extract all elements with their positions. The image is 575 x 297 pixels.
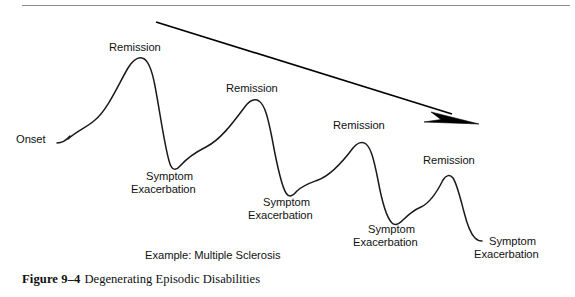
example-note: Example: Multiple Sclerosis [145, 249, 280, 263]
label-exacerbation-3-line2: Exacerbation [353, 236, 418, 250]
figure-caption: Figure 9–4Degenerating Episodic Disabili… [22, 272, 260, 287]
label-remission-1: Remission [109, 41, 161, 55]
label-exacerbation-2-line1: Symptom [263, 196, 310, 210]
label-remission-3: Remission [333, 119, 385, 133]
label-exacerbation-4-line1: Symptom [489, 235, 536, 249]
figure-container: Onset Remission Symptom Exacerbation Rem… [0, 0, 575, 297]
label-exacerbation-4-line2: Exacerbation [474, 248, 539, 262]
label-exacerbation-1-line1: Symptom [146, 170, 193, 184]
label-exacerbation-1-line2: Exacerbation [131, 183, 196, 197]
label-remission-2: Remission [226, 82, 278, 96]
label-onset: Onset [16, 133, 46, 147]
label-remission-4: Remission [423, 154, 475, 168]
figure-title: Degenerating Episodic Disabilities [80, 272, 260, 286]
label-exacerbation-2-line2: Exacerbation [248, 209, 313, 223]
trend-arrow-shaft [156, 22, 452, 114]
label-exacerbation-3-line1: Symptom [368, 223, 415, 237]
figure-number: Figure 9–4 [22, 272, 80, 286]
